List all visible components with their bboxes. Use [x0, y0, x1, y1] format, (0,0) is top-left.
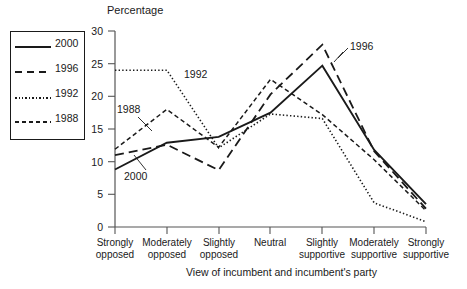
legend-item-2000: 2000	[11, 36, 84, 60]
legend-label-1988: 1988	[55, 112, 78, 124]
legend-swatch-long-dashed	[15, 71, 51, 73]
annotation-leaders	[134, 48, 348, 170]
x-tick-label-line1: Strongly	[393, 237, 459, 249]
x-tick-label-strongly-supportive: Strongly supportive	[393, 237, 459, 260]
chart-legend: 2000 1996 1992 1988	[10, 31, 85, 140]
leader-1988	[138, 117, 152, 131]
annotation-1996: 1996	[350, 40, 373, 52]
x-tick-label-line2: supportive	[393, 249, 459, 261]
legend-label-2000: 2000	[55, 37, 78, 49]
legend-swatch-short-dashed	[15, 121, 51, 123]
legend-item-1992: 1992	[11, 86, 84, 110]
leader-1996	[334, 52, 343, 62]
y-tick-label-30: 30	[83, 25, 103, 37]
chart-figure: Percentage	[0, 0, 467, 289]
y-tick-label-25: 25	[83, 58, 103, 70]
x-axis-ticks	[115, 227, 426, 234]
legend-swatch-dotted	[15, 97, 51, 99]
series-line-2000	[115, 66, 426, 205]
legend-item-1988: 1988	[11, 111, 84, 135]
x-axis-title: View of incumbent and incumbent's party	[186, 266, 377, 278]
annotation-2000: 2000	[124, 170, 147, 182]
legend-label-1992: 1992	[55, 87, 78, 99]
y-tick-label-20: 20	[83, 90, 103, 102]
legend-item-1996: 1996	[11, 61, 84, 85]
annotation-1988: 1988	[117, 103, 140, 115]
series-line-1996	[115, 45, 426, 209]
axis-lines	[115, 31, 426, 227]
legend-label-1996: 1996	[55, 62, 78, 74]
legend-swatch-solid	[15, 46, 51, 48]
series-layer	[115, 45, 426, 222]
x-tick-label-line2: opposed	[186, 249, 252, 261]
y-tick-label-15: 15	[83, 123, 103, 135]
y-tick-label-5: 5	[83, 188, 103, 200]
y-axis-ticks	[108, 31, 115, 227]
y-tick-label-10: 10	[83, 156, 103, 168]
annotation-1992: 1992	[184, 68, 207, 80]
y-tick-label-0: 0	[83, 221, 103, 233]
